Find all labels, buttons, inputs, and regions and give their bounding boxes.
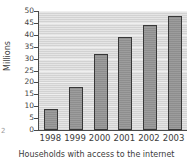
bar [69,87,83,130]
bar [118,37,132,130]
bar [168,16,182,130]
y-tick-mark [34,71,38,72]
x-axis-tick-labels: 199819992000200120022003 [38,133,186,145]
y-tick-label: 40 [20,31,34,39]
x-tick-label: 2000 [88,133,112,145]
y-tick-label: 30 [20,55,34,63]
y-tick-label: 45 [20,19,34,27]
plot-area [38,11,187,131]
x-tick-label: 1998 [38,133,62,145]
x-axis-title: Households with access to the internet [0,150,193,159]
y-tick-label: 10 [20,102,34,110]
y-tick-label: 15 [20,90,34,98]
y-tick-mark [34,106,38,107]
x-tick-label: 2003 [162,133,186,145]
y-tick-label: 5 [20,114,34,122]
x-tick-label: 2001 [112,133,136,145]
edge-artifact-text: 2 [1,128,5,135]
y-tick-mark [34,23,38,24]
bar [94,54,108,130]
bar [143,25,157,130]
y-tick-mark [34,82,38,83]
y-tick-label: 35 [20,43,34,51]
y-tick-mark [34,35,38,36]
bar [44,109,58,130]
y-axis-tick-labels: 50454035302520151050 [18,0,34,168]
y-tick-mark [34,11,38,12]
x-tick-label: 1999 [63,133,87,145]
y-tick-mark [34,130,38,131]
bar-chart-figure: 2 Millions 50454035302520151050 19981999… [0,0,193,168]
y-tick-mark [34,47,38,48]
y-tick-label: 25 [20,67,34,75]
y-tick-label: 50 [20,7,34,15]
y-tick-label: 0 [20,126,34,134]
y-axis-title: Millions [4,26,12,86]
y-tick-mark [34,94,38,95]
y-tick-label: 20 [20,78,34,86]
y-tick-mark [34,118,38,119]
y-tick-mark [34,59,38,60]
bar-series [39,11,187,130]
x-tick-label: 2002 [137,133,161,145]
